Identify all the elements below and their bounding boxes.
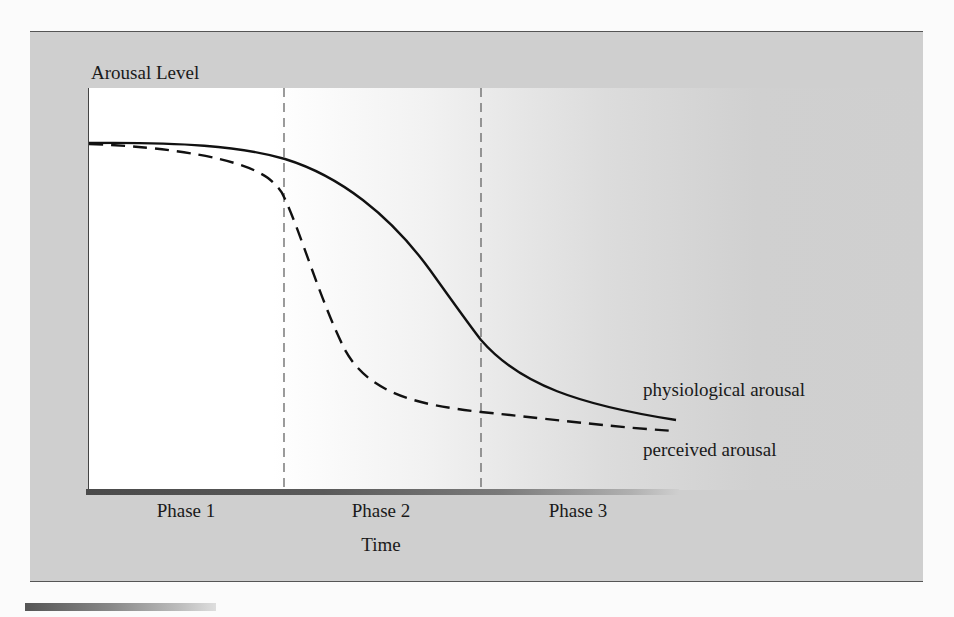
decorative-gradient-bar: [25, 603, 216, 611]
phase-2-label: Phase 2: [352, 500, 411, 522]
physiological-arousal-line: [89, 143, 676, 420]
phase-1-label: Phase 1: [157, 500, 216, 522]
x-axis-bar: [86, 489, 679, 495]
y-axis-label: Arousal Level: [91, 62, 199, 84]
physiological-arousal-label: physiological arousal: [643, 379, 805, 401]
perceived-arousal-line: [89, 144, 676, 431]
phase-3-label: Phase 3: [549, 500, 608, 522]
x-axis-label: Time: [361, 534, 400, 556]
chart-lines: [0, 0, 954, 617]
perceived-arousal-label: perceived arousal: [643, 439, 776, 461]
